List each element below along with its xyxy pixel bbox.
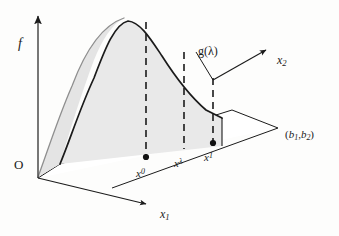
cutting-surface — [38, 18, 232, 178]
x1-axis-label: x1 — [160, 208, 170, 222]
cutting-surface-fill — [60, 21, 222, 164]
point-xlambda-label: xλ — [174, 158, 182, 169]
b-point-label: (b1,b2) — [285, 129, 314, 142]
point-x1-superscript: 1 — [209, 151, 213, 160]
x2-axis-label-subscript: 2 — [282, 58, 286, 68]
point-x1-label: x1 — [204, 152, 213, 163]
b-point-close-paren: ) — [310, 128, 314, 140]
g-lambda-label: g(λ) — [198, 45, 218, 57]
figure-canvas: f O g(λ) x2 x1 (b1,b2) x0 xλ x1 — [0, 0, 339, 236]
x1-axis-label-subscript: 1 — [165, 212, 169, 222]
dot-x0 — [143, 154, 149, 160]
origin-label: O — [14, 158, 23, 171]
point-xlambda-superscript: λ — [179, 157, 182, 166]
f-axis-label: f — [18, 37, 22, 51]
x2-axis-label: x2 — [277, 54, 287, 68]
line-search-diagram — [0, 0, 339, 236]
point-x0-label: x0 — [136, 168, 145, 179]
x2-axis-line — [213, 50, 266, 80]
dot-x1 — [210, 140, 216, 146]
point-x0-superscript: 0 — [141, 167, 145, 176]
